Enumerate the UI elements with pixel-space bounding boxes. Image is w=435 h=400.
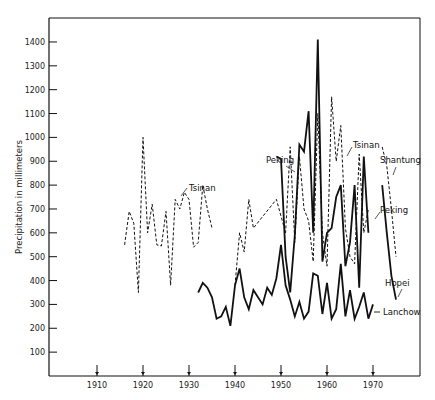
label-tsinan-early: Tsinan xyxy=(188,183,216,193)
y-tick-label: 1100 xyxy=(25,110,45,119)
leader-tsinan-late xyxy=(347,147,352,156)
x-axis-ticks: 1910192019301940195019601970 xyxy=(87,365,383,390)
y-tick-label: 1200 xyxy=(25,86,45,95)
label-tsinan-late: Tsinan xyxy=(352,140,380,150)
y-tick-label: 1000 xyxy=(25,133,45,142)
x-tick-label: 1960 xyxy=(317,381,337,390)
leader-peking-right xyxy=(375,212,380,219)
arrow-down-icon xyxy=(371,372,375,375)
arrow-down-icon xyxy=(187,372,191,375)
y-tick-label: 900 xyxy=(30,157,45,166)
plot-frame xyxy=(49,18,420,376)
y-tick-label: 100 xyxy=(30,348,45,357)
arrow-down-icon xyxy=(95,372,99,375)
x-tick-label: 1910 xyxy=(87,381,107,390)
label-hopei: Hopei xyxy=(385,278,410,288)
series-lines xyxy=(125,40,396,326)
x-tick-label: 1920 xyxy=(133,381,153,390)
x-tick-label: 1940 xyxy=(225,381,245,390)
x-tick-label: 1970 xyxy=(363,381,383,390)
label-shantung: Shantung xyxy=(380,155,421,165)
y-tick-label: 600 xyxy=(30,229,45,238)
label-peking-right: Peking xyxy=(380,205,408,215)
y-tick-label: 400 xyxy=(30,277,45,286)
x-tick-label: 1950 xyxy=(271,381,291,390)
label-lanchow: Lanchow xyxy=(383,307,421,317)
y-tick-label: 700 xyxy=(30,205,45,214)
leader-peking-left xyxy=(286,166,295,172)
leader-hopei xyxy=(398,289,402,297)
leader-shantung xyxy=(393,167,396,175)
y-tick-label: 300 xyxy=(30,300,45,309)
arrow-down-icon xyxy=(279,372,283,375)
y-tick-label: 1300 xyxy=(25,62,45,71)
series-line-tsinan-late xyxy=(235,97,368,285)
y-axis-ticks: 1002003004005006007008009001000110012001… xyxy=(25,38,57,357)
arrow-down-icon xyxy=(325,372,329,375)
precipitation-chart: 1002003004005006007008009001000110012001… xyxy=(0,0,435,400)
series-labels: Tsinan Peking Tsinan Shantung Peking Hop… xyxy=(181,140,421,317)
y-axis-label: Precipitation in millimeters xyxy=(14,139,24,254)
label-peking-left: Peking xyxy=(266,155,294,165)
y-tick-label: 200 xyxy=(30,324,45,333)
y-tick-label: 500 xyxy=(30,253,45,262)
series-line-tsinan-early xyxy=(125,137,212,292)
x-tick-label: 1930 xyxy=(179,381,199,390)
arrow-down-icon xyxy=(141,372,145,375)
y-tick-label: 1400 xyxy=(25,38,45,47)
y-tick-label: 800 xyxy=(30,181,45,190)
arrow-down-icon xyxy=(233,372,237,375)
